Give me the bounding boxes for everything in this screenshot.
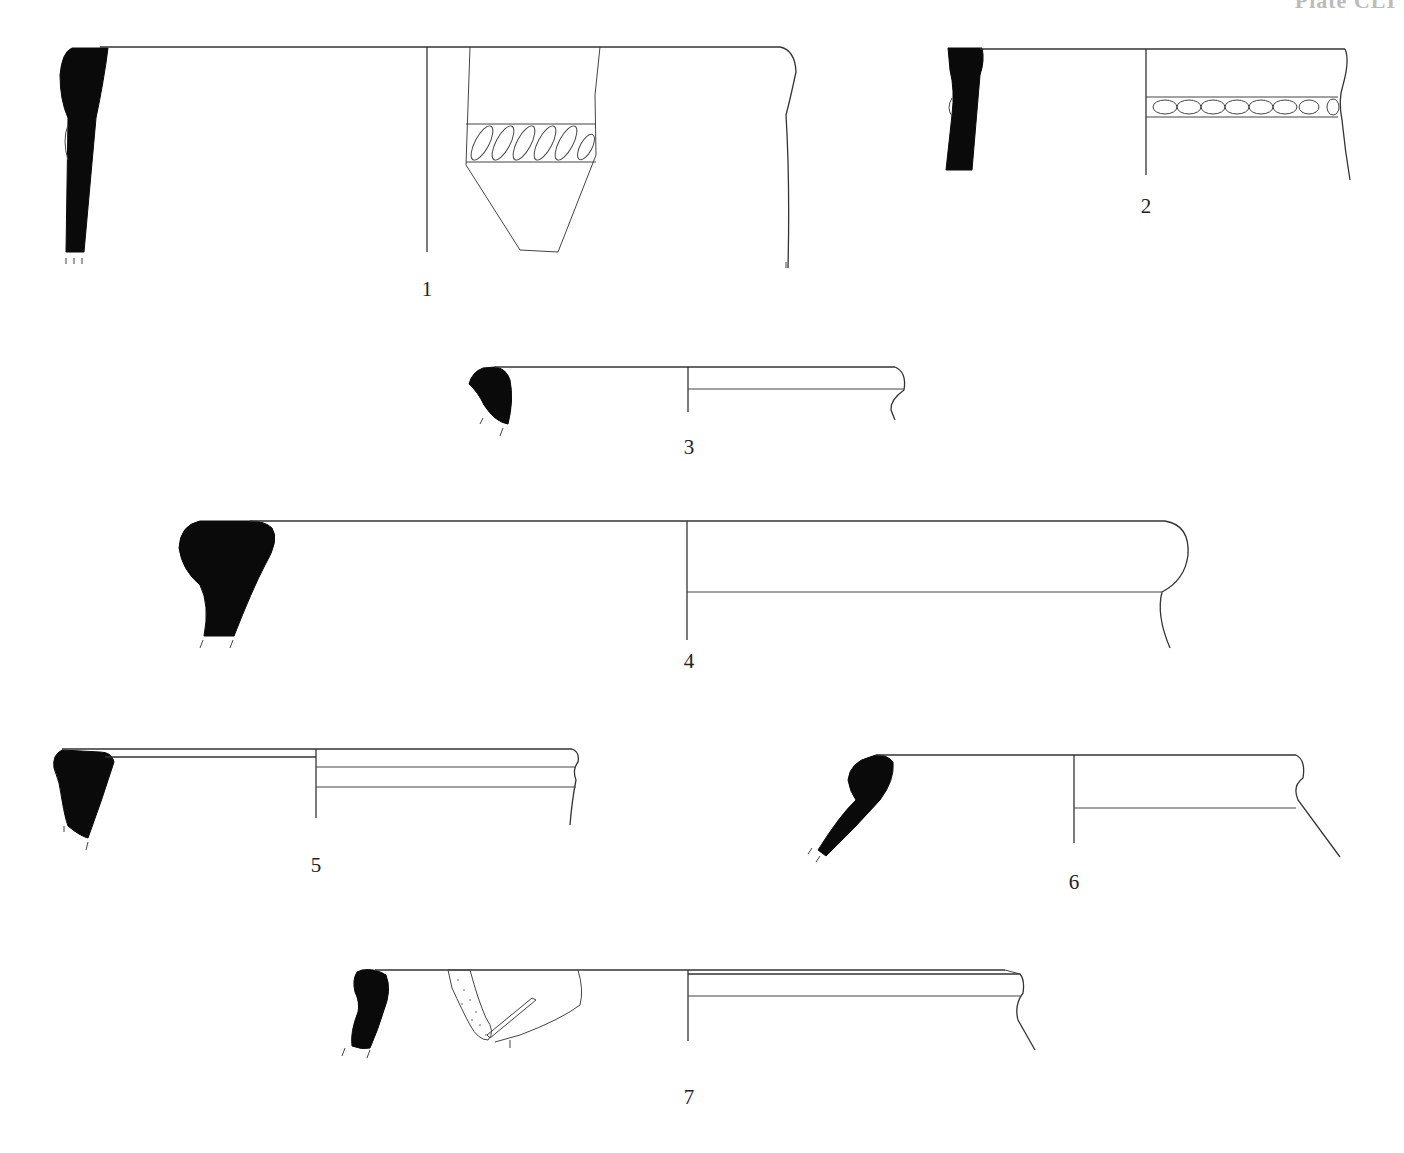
figure-3-drawing — [469, 367, 905, 436]
figure-5-drawing — [54, 749, 579, 850]
figure-2-label: 2 — [1141, 196, 1152, 217]
pottery-plate-drawing — [0, 0, 1404, 1153]
figure-4-drawing — [179, 521, 1188, 648]
figure-4-label: 4 — [684, 651, 695, 672]
figure-6-drawing — [808, 755, 1340, 862]
figure-1-label: 1 — [422, 279, 433, 300]
figure-7-label: 7 — [684, 1087, 695, 1108]
figure-7-drawing — [342, 970, 1035, 1058]
figure-3-label: 3 — [684, 437, 695, 458]
figure-5-label: 5 — [311, 855, 322, 876]
figure-1-drawing — [60, 47, 796, 268]
figure-6-label: 6 — [1069, 872, 1080, 893]
figure-2-drawing — [946, 48, 1350, 180]
